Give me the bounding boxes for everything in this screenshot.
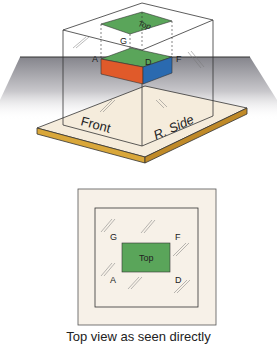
top-view-label-a: A [110, 275, 116, 285]
label-a: A [92, 54, 98, 64]
label-d: D [145, 57, 152, 67]
top-view-label-g: G [110, 232, 117, 242]
top-view-label-f: F [175, 232, 181, 242]
label-g: G [120, 36, 127, 46]
caption: Top view as seen directly [0, 329, 277, 344]
top-face-projected [101, 12, 172, 34]
top-view-label-d: D [175, 275, 182, 285]
top-view-top-label: Top [139, 253, 154, 263]
label-f: F [176, 54, 182, 64]
